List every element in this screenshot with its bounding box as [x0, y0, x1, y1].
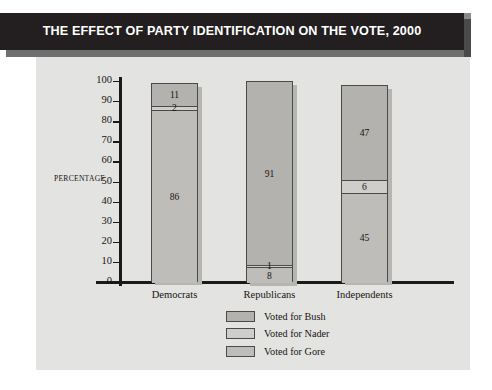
legend-swatch — [226, 328, 255, 339]
chart-panel: 1009080706050403020100 PERCENTAGE 11286D… — [36, 57, 470, 370]
y-tick-label-20: 20 — [76, 235, 112, 246]
chart-title-bar: THE EFFECT OF PARTY IDENTIFICATION ON TH… — [0, 13, 464, 50]
bar-segment-value: 11 — [170, 90, 179, 100]
y-tick-mark-100 — [113, 81, 119, 82]
bar-independents[interactable]: 47645 — [341, 85, 388, 282]
bar-segment-gore[interactable]: 45 — [342, 193, 387, 283]
y-tick-mark-20 — [113, 242, 119, 243]
x-axis-label-independents: Independents — [295, 289, 435, 300]
y-tick-mark-70 — [113, 141, 119, 142]
legend-item-nader[interactable]: Voted for Nader — [226, 326, 329, 342]
bar-segment-value: 47 — [360, 128, 370, 138]
y-tick-mark-10 — [113, 262, 119, 263]
y-tick-label-100: 100 — [76, 74, 112, 85]
bar-stack: 9118 — [246, 81, 293, 282]
bar-segment-value: 91 — [265, 169, 275, 179]
y-tick-mark-90 — [113, 101, 119, 102]
bar-stack: 47645 — [341, 85, 388, 282]
y-tick-label-60: 60 — [76, 154, 112, 165]
legend-label: Voted for Nader — [264, 328, 329, 339]
y-tick-label-90: 90 — [76, 94, 112, 105]
y-tick-label-30: 30 — [76, 215, 112, 226]
bar-stack: 11286 — [151, 83, 198, 282]
bar-segment-value: 6 — [362, 182, 367, 192]
y-tick-mark-0 — [113, 282, 119, 283]
legend-label: Voted for Gore — [264, 346, 325, 357]
y-axis-title: PERCENTAGE — [54, 174, 105, 183]
legend-label: Voted for Bush — [264, 311, 326, 322]
bar-democrats[interactable]: 11286 — [151, 83, 198, 282]
y-tick-label-80: 80 — [76, 114, 112, 125]
y-tick-mark-40 — [113, 202, 119, 203]
y-tick-label-70: 70 — [76, 134, 112, 145]
legend-swatch — [226, 311, 255, 322]
title-bar-bevel-right — [464, 19, 471, 57]
y-tick-label-10: 10 — [76, 255, 112, 266]
title-bar-bevel-bottom — [6, 50, 464, 57]
bar-segment-gore[interactable]: 8 — [247, 267, 292, 283]
legend-item-gore[interactable]: Voted for Gore — [226, 343, 329, 359]
bar-segment-value: 8 — [267, 271, 272, 281]
chart-legend: Voted for BushVoted for NaderVoted for G… — [226, 308, 329, 361]
legend-swatch — [226, 346, 255, 357]
legend-item-bush[interactable]: Voted for Bush — [226, 308, 329, 324]
bar-segment-bush[interactable]: 91 — [247, 82, 292, 265]
bar-segment-gore[interactable]: 86 — [152, 110, 197, 283]
y-tick-mark-50 — [113, 182, 119, 183]
y-tick-mark-30 — [113, 222, 119, 223]
y-tick-label-40: 40 — [76, 195, 112, 206]
y-tick-mark-60 — [113, 161, 119, 162]
y-tick-label-0: 0 — [76, 275, 112, 286]
bar-segment-value: 45 — [360, 233, 370, 243]
y-tick-mark-80 — [113, 121, 119, 122]
y-axis-line — [119, 77, 122, 286]
bar-segment-nader[interactable]: 6 — [342, 180, 387, 192]
bar-republicans[interactable]: 9118 — [246, 81, 293, 282]
chart-title: THE EFFECT OF PARTY IDENTIFICATION ON TH… — [0, 13, 464, 50]
bar-segment-value: 2 — [172, 103, 177, 113]
bar-segment-value: 86 — [170, 192, 180, 202]
bar-segment-bush[interactable]: 47 — [342, 86, 387, 180]
